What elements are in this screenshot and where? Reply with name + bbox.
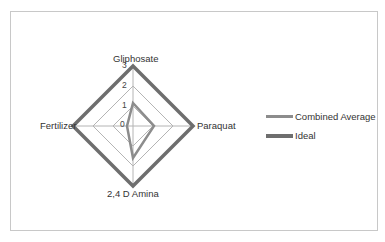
axis-label-gliphosate: Gliphosate [113,53,158,64]
axis-label-fertilizer: Fertilizer [40,120,76,131]
legend-swatch-combined-average [266,115,293,118]
axis-label-paraquat: Paraquat [197,120,236,131]
tick-label-0: 0 [120,119,125,129]
tick-label-2: 2 [122,80,127,90]
tick-label-3: 3 [122,60,127,70]
radar-grid [73,66,193,186]
axis-label-2-4-d-amina: 2,4 D Amina [107,188,159,199]
legend-swatch-ideal [266,134,293,138]
legend-item-combined-average: Combined Average [266,107,376,126]
legend-item-ideal: Ideal [266,126,376,145]
tick-label-1: 1 [122,100,127,110]
chart-legend: Combined Average Ideal [266,107,376,145]
legend-label-combined-average: Combined Average [295,111,376,122]
legend-label-ideal: Ideal [295,130,316,141]
